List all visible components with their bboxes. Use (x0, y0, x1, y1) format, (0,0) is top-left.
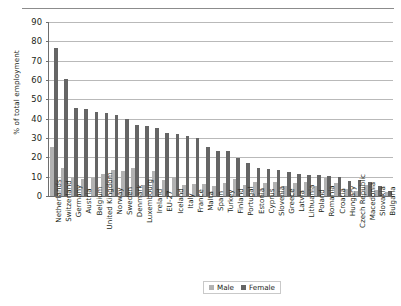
x-category-label: Switzerland (59, 199, 69, 277)
x-category-label: Slovakia (373, 199, 383, 277)
x-axis-category-labels: NetherlandsSwitzerlandGermanyAustriaBelg… (49, 199, 393, 277)
bar-group (252, 22, 262, 196)
legend-item-male: Male (209, 283, 234, 292)
bar-group (363, 22, 373, 196)
x-category-label: Iceland (171, 199, 181, 277)
x-category-label: Italy (181, 199, 191, 277)
x-category-label: Latvia (292, 199, 302, 277)
chart-legend: Male Female (203, 281, 281, 294)
bar-group (191, 22, 201, 196)
bar-group (69, 22, 79, 196)
x-category-label: Netherlands (49, 199, 59, 277)
x-category-label: Turkey (221, 199, 231, 277)
x-category-label: Estonia (252, 199, 262, 277)
bar-female (125, 119, 129, 196)
bar-female (176, 134, 180, 196)
y-tick-label-20: 20 (18, 152, 42, 162)
x-category-label: Poland (312, 199, 322, 277)
bar-group (171, 22, 181, 196)
x-category-label: Luxembourg (140, 199, 150, 277)
bar-group (49, 22, 59, 196)
bar-female (84, 109, 88, 196)
x-category-label: Greece (282, 199, 292, 277)
y-tick-label-70: 70 (18, 56, 42, 66)
bar-group (110, 22, 120, 196)
x-category-label: Austria (79, 199, 89, 277)
x-category-label: Finland (231, 199, 241, 277)
x-category-label: Macedonia (363, 199, 373, 277)
bar-group (130, 22, 140, 196)
bar-female (155, 128, 159, 196)
bar-group (231, 22, 241, 196)
x-category-label: Germany (69, 199, 79, 277)
x-category-label: Hungary (343, 199, 353, 277)
bar-female (54, 48, 58, 196)
y-tick-label-10: 10 (18, 172, 42, 182)
x-category-label: Belgium (90, 199, 100, 277)
bar-group (150, 22, 160, 196)
y-tick-label-0: 0 (18, 191, 42, 201)
x-category-label: Sweden (120, 199, 130, 277)
x-category-text: Bulgaria (388, 186, 397, 215)
bar-group (353, 22, 363, 196)
x-category-label: Malta (201, 199, 211, 277)
bar-group (343, 22, 353, 196)
bar-group (333, 22, 343, 196)
bar-group (100, 22, 110, 196)
legend-item-female: Female (241, 283, 275, 292)
bar-group (302, 22, 312, 196)
bar-group (211, 22, 221, 196)
bar-female (206, 147, 210, 196)
bar-group (140, 22, 150, 196)
bar-group (312, 22, 322, 196)
y-tick-label-90: 90 (18, 17, 42, 27)
x-category-label: Lithuania (302, 199, 312, 277)
bar-female (95, 112, 99, 196)
x-category-label: Cyprus (262, 199, 272, 277)
bar-female (165, 133, 169, 196)
bar-group (322, 22, 332, 196)
x-category-label: Czech Republic (353, 199, 363, 277)
y-tick-label-80: 80 (18, 36, 42, 46)
bar-group (201, 22, 211, 196)
y-tick-label-60: 60 (18, 75, 42, 85)
bar-female (64, 79, 68, 196)
x-category-label: Portugal (241, 199, 251, 277)
bar-female (196, 138, 200, 196)
bar-group (160, 22, 170, 196)
legend-label-male: Male (217, 283, 234, 292)
bar-group (90, 22, 100, 196)
bar-series-container (49, 22, 393, 196)
bar-female (74, 108, 78, 196)
bar-group (181, 22, 191, 196)
bar-group (79, 22, 89, 196)
x-category-label: France (191, 199, 201, 277)
x-category-label: Croatia (333, 199, 343, 277)
bar-group (272, 22, 282, 196)
bar-group (292, 22, 302, 196)
bar-group (241, 22, 251, 196)
x-category-label: EU-27 (160, 199, 170, 277)
bar-group (59, 22, 69, 196)
x-category-label: Bulgaria (383, 199, 393, 277)
y-tick-label-40: 40 (18, 114, 42, 124)
legend-swatch-male-icon (209, 285, 214, 290)
bar-female (115, 115, 119, 196)
y-tick-label-30: 30 (18, 133, 42, 143)
bar-group (383, 22, 393, 196)
bar-group (262, 22, 272, 196)
x-category-label: Denmark (130, 199, 140, 277)
x-category-label: Ireland (150, 199, 160, 277)
bar-group (221, 22, 231, 196)
x-category-label: Norway (110, 199, 120, 277)
legend-swatch-female-icon (241, 285, 246, 290)
top-divider (22, 8, 394, 9)
legend-label-female: Female (249, 283, 275, 292)
x-category-label: Spain (211, 199, 221, 277)
chart-figure: % of total employment 010203040506070809… (0, 0, 401, 306)
bar-female (186, 136, 190, 197)
bar-female (216, 151, 220, 196)
bar-group (373, 22, 383, 196)
y-tick-label-50: 50 (18, 94, 42, 104)
plot-area (49, 22, 393, 196)
